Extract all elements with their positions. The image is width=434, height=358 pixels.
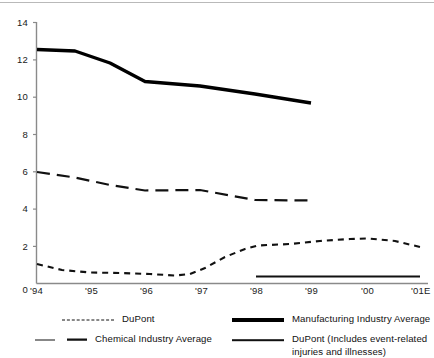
y-tick-label-0: 0 [2, 285, 28, 295]
thin-solid-swatch-icon [232, 334, 284, 346]
y-tick-label-8: 8 [2, 130, 28, 140]
thick-solid-swatch-icon [232, 314, 284, 326]
chart-legend: DuPont Manufacturing Industry Average Ch… [0, 305, 434, 355]
legend-label-dupont-event-related: DuPont (Includes event-related injuries … [284, 333, 432, 358]
legend-item-dupont-event-related: DuPont (Includes event-related injuries … [232, 333, 432, 358]
x-tick-label-99: '99 [305, 286, 318, 296]
y-tick-label-14: 14 [2, 18, 28, 28]
y-tick-label-4: 4 [2, 204, 28, 214]
y-tick-label-10: 10 [2, 92, 28, 102]
legend-item-dupont: DuPont [62, 313, 155, 326]
x-tick-label-95: '95 [85, 286, 98, 296]
x-tick-label-96: '96 [140, 286, 153, 296]
plot-svg [0, 0, 434, 300]
y-tick-label-12: 12 [2, 55, 28, 65]
x-tick-label-97: '97 [195, 286, 208, 296]
series-chemical-industry-average [37, 172, 311, 201]
x-tick-label-94: '94 [30, 286, 43, 296]
x-tick-label-00: '00 [361, 286, 374, 296]
legend-item-chemical-industry-average: Chemical Industry Average [35, 333, 212, 346]
legend-item-manufacturing-industry-average: Manufacturing Industry Average [232, 313, 430, 326]
x-tick-label-01E: '01E [411, 286, 431, 296]
y-tick-label-6: 6 [2, 167, 28, 177]
legend-label-chemical-industry-average: Chemical Industry Average [87, 333, 212, 346]
long-dashed-swatch-icon [35, 334, 87, 346]
legend-label-dupont: DuPont [114, 313, 155, 326]
plot-area: 14 12 10 8 6 4 2 0 '94 '95 '96 '97 '98 '… [0, 0, 434, 300]
y-tick-label-2: 2 [2, 242, 28, 252]
series-manufacturing-industry-average [37, 50, 311, 104]
short-dashed-swatch-icon [62, 314, 114, 326]
legend-label-manufacturing-industry-average: Manufacturing Industry Average [284, 313, 430, 326]
x-tick-label-98: '98 [250, 286, 263, 296]
series-dupont [37, 239, 420, 276]
